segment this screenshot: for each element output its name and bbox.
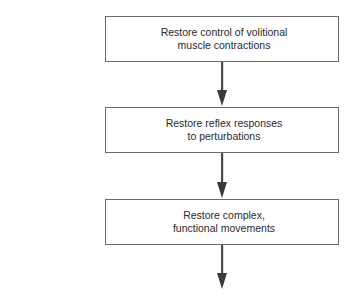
- down-arrow-icon: [216, 153, 228, 199]
- step-box-reflex-responses: Restore reflex responses to perturbation…: [105, 107, 339, 153]
- down-arrow-icon: [216, 62, 228, 107]
- step-box-volitional-control: Restore control of volitional muscle con…: [105, 16, 339, 62]
- down-arrow-icon: [216, 245, 228, 290]
- step-label: Restore complex, functional movements: [169, 209, 275, 235]
- step-label: Restore control of volitional muscle con…: [157, 26, 288, 52]
- step-box-functional-movements: Restore complex, functional movements: [105, 199, 339, 245]
- step-label: Restore reflex responses to perturbation…: [162, 117, 283, 143]
